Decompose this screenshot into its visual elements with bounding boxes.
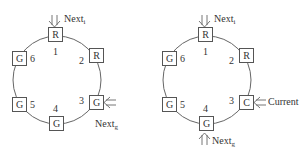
node-2-number: 2 [79,56,84,66]
node-4-number: 4 [203,104,208,114]
node-1-box: R [48,27,63,42]
node-1-number: 1 [203,47,208,57]
current-label: Current [268,97,299,107]
node-1-number: 1 [53,47,58,57]
node-2-number: 2 [229,56,234,66]
next-g-label: Nextg [212,136,235,149]
node-6-number: 6 [30,54,35,64]
next-i-label: Nexti [64,14,85,27]
node-2-box: R [89,48,104,63]
node-5-number: 5 [180,100,185,110]
node-1-box: R [198,27,213,42]
node-4-box: G [49,116,64,131]
ring-diagram-left: R R G G G G 1 2 3 4 5 6 Nexti Nextg [0,0,152,151]
node-3-box: G [89,95,104,110]
node-6-box: G [162,51,177,66]
ring-diagram-right: R R C G G G 1 2 3 4 5 6 Nexti Current Ne… [150,0,302,151]
node-6-box: G [12,51,27,66]
node-5-box: G [12,97,27,112]
node-3-number: 3 [229,96,234,106]
node-4-box: G [199,116,214,131]
node-5-box: G [162,97,177,112]
node-3-number: 3 [79,96,84,106]
next-i-label: Nexti [214,14,235,27]
node-2-box: R [239,48,254,63]
node-3-box: C [239,95,254,110]
node-4-number: 4 [53,104,58,114]
node-5-number: 5 [30,100,35,110]
node-6-number: 6 [180,54,185,64]
next-g-label: Nextg [95,119,118,132]
